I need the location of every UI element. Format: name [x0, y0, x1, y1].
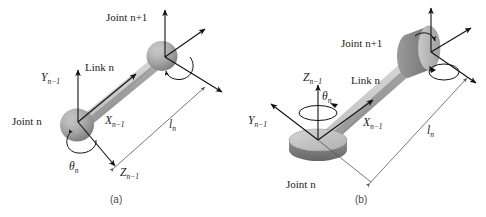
label-link-n-b: Link n: [351, 74, 381, 86]
figure-canvas: Joint n Joint n+1 Link n Yn−1 Xn−1 Zn−1 …: [0, 0, 486, 217]
diagram-a-svg: Joint n Joint n+1 Link n Yn−1 Xn−1 Zn−1 …: [0, 0, 243, 217]
label-length-l-n-a: ln: [169, 118, 176, 133]
label-joint-n-plus-1-a: Joint n+1: [106, 11, 147, 23]
joint-n-plus-1-sphere-a: [147, 41, 178, 71]
axis-z-n-minus-1-a: [78, 122, 115, 166]
label-joint-n-plus-1-b: Joint n+1: [341, 37, 382, 49]
caption-a: (a): [110, 194, 122, 205]
axis-diag-joint-n1-a: [165, 29, 205, 57]
label-theta-n-a: θn: [69, 160, 79, 175]
label-axis-x-a: Xn−1: [104, 114, 125, 129]
label-link-n-a: Link n: [85, 61, 115, 73]
length-dim-line-a: [114, 87, 205, 168]
label-joint-n-a: Joint n: [12, 115, 42, 127]
diagram-b-svg: Joint n Joint n+1 Link n Zn−1 Yn−1 Xn−1 …: [243, 0, 486, 217]
label-axis-z-a: Zn−1: [120, 166, 139, 181]
length-dimension-a: [114, 87, 205, 168]
figure-panel-b: Joint n Joint n+1 Link n Zn−1 Yn−1 Xn−1 …: [243, 0, 486, 217]
label-axis-y-a: Yn−1: [41, 71, 60, 86]
label-axis-x-b: Xn−1: [362, 116, 383, 131]
caption-b: (b): [355, 194, 367, 205]
rotation-arc-lower-b: [429, 64, 459, 80]
label-theta-n-b: θn: [322, 90, 332, 105]
axis-down-joint-n1-a: [165, 57, 222, 92]
label-joint-n-b: Joint n: [286, 178, 316, 190]
frame-n-a: [165, 10, 222, 92]
label-axis-z-b: Zn−1: [303, 71, 322, 86]
figure-panel-a: Joint n Joint n+1 Link n Yn−1 Xn−1 Zn−1 …: [0, 0, 243, 217]
label-axis-y-b: Yn−1: [248, 114, 267, 129]
label-length-l-n-b: ln: [427, 124, 434, 139]
